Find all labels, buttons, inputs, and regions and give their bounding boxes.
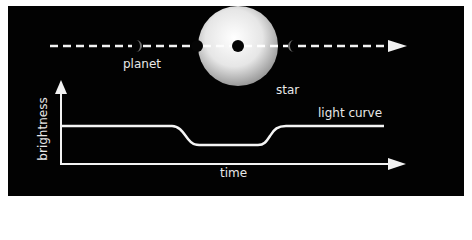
planet-disk-limb [191, 40, 203, 52]
light-curve-label: light curve [318, 106, 382, 120]
star-label: star [276, 83, 299, 97]
time-axis-label: time [220, 166, 247, 180]
light-curve-line [62, 126, 384, 145]
y-axis-arrowhead-icon [55, 80, 67, 94]
planet-crescent-icon [136, 40, 142, 52]
orbit-arrowhead-icon [388, 40, 407, 52]
planet-disk-center [232, 40, 244, 52]
planet-crescent-icon [288, 40, 294, 52]
x-axis-arrowhead-icon [388, 158, 406, 170]
brightness-axis-label: brightness [36, 94, 50, 164]
planet-label: planet [123, 57, 161, 71]
